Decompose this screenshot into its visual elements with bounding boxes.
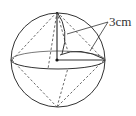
sphere-diagram: 3cm — [0, 0, 136, 116]
equator-front — [11, 60, 105, 69]
equator-back — [11, 51, 105, 60]
dimension-label: 3cm — [109, 14, 131, 29]
meridian-arc — [57, 12, 65, 54]
center-point — [55, 58, 58, 61]
